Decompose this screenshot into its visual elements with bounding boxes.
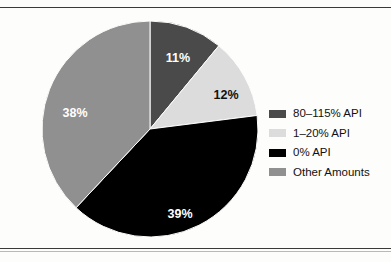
legend-item-0-api[interactable]: 0% API — [269, 143, 389, 163]
pie-slice-data-label: 39% — [167, 207, 192, 221]
pie-slice-data-label: 12% — [213, 88, 238, 102]
legend-label-80-115-api: 80–115% API — [293, 108, 362, 120]
bottom-rule — [0, 248, 391, 249]
legend-label-1-20-api: 1–20% API — [293, 128, 350, 140]
bottom-rule-secondary — [0, 251, 391, 252]
legend-item-80-115-api[interactable]: 80–115% API — [269, 104, 389, 124]
chart-legend: 80–115% API 1–20% API 0% API Other Amoun… — [269, 104, 389, 182]
legend-item-1-20-api[interactable]: 1–20% API — [269, 124, 389, 144]
legend-label-other-amounts: Other Amounts — [293, 167, 370, 179]
pie-slice-data-label: 11% — [166, 51, 190, 65]
legend-item-other-amounts[interactable]: Other Amounts — [269, 163, 389, 183]
legend-swatch-icon-1-20-api — [269, 129, 286, 137]
pie-slice-data-label: 38% — [62, 106, 87, 120]
legend-swatch-icon-0-api — [269, 149, 286, 157]
legend-label-0-api: 0% API — [293, 147, 331, 159]
legend-swatch-icon-other-amounts — [269, 168, 286, 176]
figure-container: 11%12%39%38% 80–115% API 1–20% API 0% AP… — [0, 0, 391, 262]
legend-swatch-icon-80-115-api — [269, 110, 286, 118]
